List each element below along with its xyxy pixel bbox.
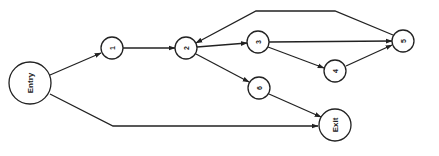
edge-n3-to-n5 [269,41,392,42]
edge-n6-to-exit [269,94,321,117]
edge-entry-to-n1 [50,53,101,75]
edge-n5-to-n2 [196,11,393,43]
node-n5: 5 [392,30,414,52]
node-n3: 3 [247,31,269,53]
node-label: 5 [400,39,407,43]
node-label: 4 [332,69,339,73]
node-label: 3 [255,40,262,44]
node-label: Entry [26,72,35,93]
node-n4: 4 [324,60,346,82]
node-label: 6 [256,86,263,90]
node-exit: Exit [319,109,351,141]
control-flow-graph: Entry123456Exit [0,0,439,156]
node-n6: 6 [248,77,270,99]
node-label: 1 [109,46,116,50]
node-entry: Entry [9,62,51,104]
node-n1: 1 [101,37,123,59]
node-label: 2 [183,46,190,50]
edge-n2-to-n6 [196,54,249,82]
edge-n3-to-n4 [268,47,324,68]
node-n2: 2 [175,37,197,59]
node-label: Exit [331,117,340,132]
edge-n2-to-n3 [197,43,247,47]
edge-entry-to-exit [50,94,318,126]
nodes-layer: Entry123456Exit [9,30,414,141]
edge-n4-to-n5 [346,45,392,66]
